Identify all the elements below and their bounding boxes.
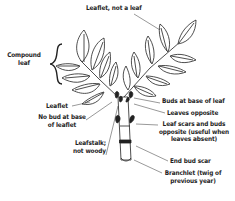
label-compound-leaf-line2: leaf (6, 60, 42, 68)
label-leafstalk-line2: not woody (62, 148, 106, 156)
branchlet (118, 97, 131, 160)
label-no-bud-at-base-of-leaflet: No bud at base of leaflet (34, 114, 90, 129)
label-compound-leaf: Compound leaf (6, 52, 42, 67)
label-end-bud-scar: End bud scar (170, 158, 211, 166)
label-leaflet: Leaflet (46, 103, 68, 111)
compound-leaf-brace (50, 44, 62, 84)
label-leaves-opposite: Leaves opposite (167, 110, 218, 118)
label-leaf-scars-and-buds-opposite: Leaf scars and buds opposite (useful whe… (154, 121, 234, 144)
label-leafstalk: Leafstalk; not woody (62, 140, 106, 155)
label-leaflet-not-a-leaf: Leaflet, not a leaf (86, 5, 142, 13)
label-leaf-scars-line3: leaves absent) (154, 136, 234, 144)
label-branchlet-line2: previous year) (160, 178, 226, 186)
label-no-bud-line2: of leaflet (34, 122, 90, 130)
label-branchlet: Branchlet (twig of previous year) (160, 170, 226, 185)
label-buds-at-base-of-leaf: Buds at base of leaf (162, 98, 225, 106)
